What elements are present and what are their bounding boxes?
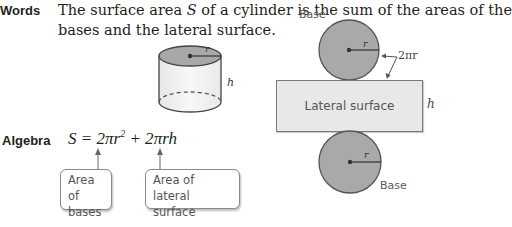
lateral-height-label: h (427, 97, 435, 111)
callout-bases-line2: bases (68, 204, 105, 220)
words-line-1-prefix: The surface area (58, 2, 187, 18)
bottom-base-label: Base (380, 179, 407, 192)
surface-area-formula: S = 2πr2 + 2πrh (68, 128, 177, 149)
lateral-surface-rect: Lateral surface (276, 80, 423, 132)
words-line-2: bases and the lateral surface. (58, 20, 276, 40)
callout-lateral-line1: Area of (153, 172, 233, 188)
callout-area-of-bases: Area of bases (60, 169, 112, 210)
callout-lateral-line2: lateral surface (153, 188, 233, 220)
words-label: Words (0, 3, 40, 18)
words-line-1: The surface area S of a cylinder is the … (58, 0, 512, 20)
circumference-label: 2πr (398, 49, 418, 62)
cylinder-diagram: r h (150, 40, 240, 120)
cylinder-height-label: h (227, 76, 234, 89)
lateral-surface-label: Lateral surface (305, 99, 395, 113)
callout-bases-line1: Area of (68, 172, 105, 204)
formula-arrows (90, 148, 170, 170)
callout-area-of-lateral-surface: Area of lateral surface (145, 169, 240, 209)
algebra-label: Algebra (2, 133, 50, 148)
variable-s: S (187, 2, 197, 18)
